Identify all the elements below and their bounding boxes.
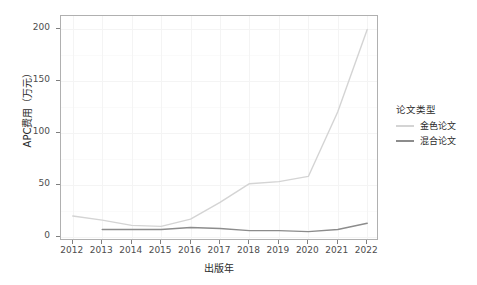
legend-item-label: 金色论文: [420, 121, 456, 131]
x-tick-mark: [248, 240, 249, 244]
x-tick-mark: [219, 240, 220, 244]
x-tick-label: 2022: [346, 246, 386, 255]
x-tick-mark: [337, 240, 338, 244]
chart-root: 050100150200 APC费用（万元） 20122013201420152…: [0, 0, 477, 285]
y-tick-mark: [56, 236, 60, 237]
x-tick-mark: [72, 240, 73, 244]
plot-panel: [60, 15, 378, 240]
legend: 论文类型 金色论文混合论文: [396, 104, 476, 151]
legend-key-line-icon: [396, 140, 414, 142]
legend-key-line-icon: [396, 125, 414, 127]
x-tick-mark: [307, 240, 308, 244]
x-tick-mark: [366, 240, 367, 244]
y-tick-mark: [56, 132, 60, 133]
x-tick-mark: [278, 240, 279, 244]
legend-entries: 金色论文混合论文: [396, 121, 476, 146]
y-tick-label: 0: [16, 231, 50, 240]
y-tick-label: 50: [16, 179, 50, 188]
x-tick-mark: [160, 240, 161, 244]
y-axis-title: APC费用（万元）: [19, 38, 34, 178]
legend-item[interactable]: 金色论文: [396, 121, 476, 131]
x-tick-mark: [190, 240, 191, 244]
y-tick-label: 200: [16, 23, 50, 32]
x-tick-mark: [131, 240, 132, 244]
y-tick-mark: [56, 80, 60, 81]
series-line: [102, 223, 367, 231]
series-line: [73, 30, 367, 227]
y-tick-mark: [56, 184, 60, 185]
x-tick-mark: [101, 240, 102, 244]
x-axis-title: 出版年: [60, 260, 378, 275]
y-tick-mark: [56, 28, 60, 29]
legend-title: 论文类型: [396, 104, 476, 115]
series-layer: [61, 16, 379, 241]
legend-item[interactable]: 混合论文: [396, 136, 476, 146]
legend-item-label: 混合论文: [420, 136, 456, 146]
